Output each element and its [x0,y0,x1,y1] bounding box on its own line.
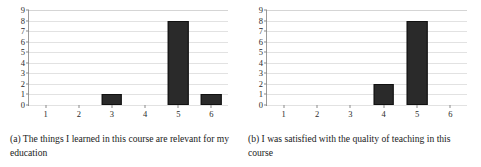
y-axis-tick-label: 1 [259,90,263,99]
gridline [29,84,228,85]
y-axis-tick-mark [264,83,267,84]
y-axis-tick-mark [26,73,29,74]
x-axis-tick-label: 3 [348,110,352,119]
gridline [267,31,467,32]
x-axis-tick-mark [450,105,451,108]
y-axis-tick-mark [264,31,267,32]
y-axis-tick-mark [26,31,29,32]
chart-b: 0123456789123456 [240,6,480,128]
gridline [29,42,228,43]
gridline [267,105,467,106]
x-axis-tick-mark [317,105,318,108]
plot-wrap-b: 0123456789123456 [266,10,467,106]
plot-area-a: 0123456789123456 [28,10,228,106]
y-axis-tick-label: 9 [259,6,263,15]
plot-area-b: 0123456789123456 [266,10,467,106]
x-axis-tick-label: 4 [143,110,147,119]
caption-a: (a) The things I learned in this course … [10,132,232,159]
gridline [267,21,467,22]
y-axis-tick-mark [264,105,267,106]
x-axis-tick-mark [111,105,112,108]
x-axis-tick-label: 4 [382,110,386,119]
y-axis-tick-mark [26,94,29,95]
y-axis-tick-mark [26,62,29,63]
gridline [267,94,467,95]
gridline [29,63,228,64]
y-axis-tick-label: 1 [21,90,25,99]
y-axis-tick-mark [264,52,267,53]
gridline [267,52,467,53]
y-axis-tick-mark [26,52,29,53]
x-axis-tick-label: 2 [315,110,319,119]
y-axis-tick-mark [264,73,267,74]
figure-two-bar-charts: 0123456789123456 (a) The things I learne… [0,0,481,167]
y-axis-tick-label: 8 [259,16,263,25]
subfigure-a: 0123456789123456 (a) The things I learne… [0,0,240,167]
x-axis-tick-mark [211,105,212,108]
x-axis-tick-mark [178,105,179,108]
gridline [29,52,228,53]
y-axis-tick-mark [264,20,267,21]
gridline [29,94,228,95]
gridline [267,84,467,85]
gridline [29,73,228,74]
bar [102,94,123,105]
y-axis-tick-mark [264,10,267,11]
y-axis-tick-label: 5 [21,48,25,57]
y-axis-tick-mark [26,83,29,84]
y-axis-tick-mark [264,41,267,42]
y-axis-tick-mark [26,41,29,42]
x-axis-tick-label: 6 [448,110,452,119]
x-axis-tick-label: 5 [415,110,419,119]
gridline [267,73,467,74]
bar [168,21,189,105]
y-axis-tick-label: 6 [259,37,263,46]
x-axis-tick-mark [417,105,418,108]
y-axis-tick-label: 7 [259,27,263,36]
y-axis-tick-mark [264,62,267,63]
y-axis-tick-label: 7 [21,27,25,36]
y-axis-tick-label: 6 [21,37,25,46]
x-axis-tick-mark [383,105,384,108]
bar [407,21,428,105]
x-axis-tick-mark [145,105,146,108]
x-axis-tick-label: 6 [209,110,213,119]
y-axis-tick-label: 4 [21,59,25,68]
y-axis-tick-label: 0 [259,101,263,110]
y-axis-tick-label: 3 [259,69,263,78]
y-axis-tick-label: 8 [21,16,25,25]
x-axis-tick-label: 1 [282,110,286,119]
gridline [267,10,467,11]
y-axis-tick-label: 2 [21,80,25,89]
bar [201,94,222,105]
gridline [267,63,467,64]
x-axis-tick-label: 5 [176,110,180,119]
y-axis-tick-label: 4 [259,59,263,68]
x-axis-tick-mark [45,105,46,108]
gridline [29,10,228,11]
chart-a: 0123456789123456 [0,6,240,128]
plot-wrap-a: 0123456789123456 [28,10,228,106]
bar [373,84,394,105]
y-axis-tick-label: 9 [21,6,25,15]
x-axis-tick-mark [350,105,351,108]
y-axis-tick-mark [26,105,29,106]
y-axis-tick-label: 3 [21,69,25,78]
x-axis-tick-mark [78,105,79,108]
x-axis-tick-mark [283,105,284,108]
y-axis-tick-label: 2 [259,80,263,89]
gridline [29,31,228,32]
y-axis-tick-label: 5 [259,48,263,57]
x-axis-tick-label: 3 [110,110,114,119]
x-axis-tick-label: 1 [43,110,47,119]
caption-b: (b) I was satisfied with the quality of … [248,132,474,159]
y-axis-tick-label: 0 [21,101,25,110]
gridline [267,42,467,43]
y-axis-tick-mark [26,20,29,21]
gridline [29,105,228,106]
subfigure-b: 0123456789123456 (b) I was satisfied wit… [240,0,481,167]
gridline [29,21,228,22]
y-axis-tick-mark [264,94,267,95]
y-axis-tick-mark [26,10,29,11]
x-axis-tick-label: 2 [77,110,81,119]
